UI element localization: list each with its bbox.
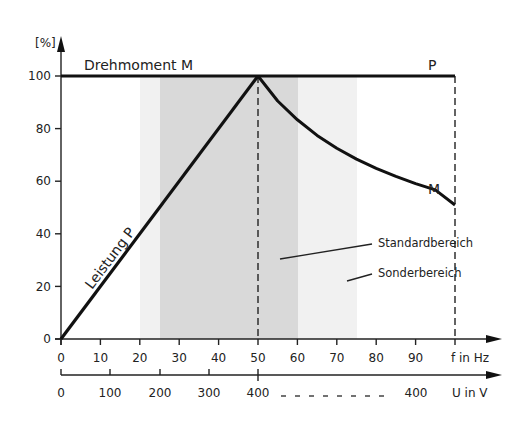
svg-text:60: 60 [36,174,51,188]
svg-text:50: 50 [250,351,265,365]
secondary-axis-label: U in V [452,386,488,400]
svg-text:80: 80 [36,122,51,136]
y-tick-labels: 100 80 60 40 20 0 [28,69,51,346]
x-tick-labels: 0 10 20 30 40 50 60 70 80 90 [57,351,423,365]
x-axis-arrow-icon [486,335,502,343]
m-end-label: M [428,181,440,197]
y-ticks [55,76,61,339]
svg-text:60: 60 [290,351,305,365]
svg-text:80: 80 [369,351,384,365]
y-axis-arrow-icon [57,36,65,52]
svg-text:70: 70 [329,351,344,365]
drehmoment-label: Drehmoment M [84,57,193,73]
svg-text:100: 100 [99,386,122,400]
frequency-chart: [%] 100 80 60 40 20 0 0 10 20 30 40 [0,0,521,423]
svg-text:20: 20 [132,351,147,365]
svg-text:20: 20 [36,280,51,294]
svg-text:0: 0 [57,386,65,400]
secondary-axis-arrow-icon [486,371,502,379]
svg-text:300: 300 [198,386,221,400]
x-ticks [61,339,455,345]
svg-text:40: 40 [211,351,226,365]
svg-text:200: 200 [149,386,172,400]
svg-text:10: 10 [93,351,108,365]
svg-text:40: 40 [36,227,51,241]
secondary-tick-labels: 0 100 200 300 400 [57,386,269,400]
svg-text:30: 30 [172,351,187,365]
x-axis-label: f in Hz [451,351,489,365]
svg-text:100: 100 [28,69,51,83]
y-axis-label: [%] [35,36,56,50]
svg-text:0: 0 [43,332,51,346]
constant-voltage-label: 400 [405,386,428,400]
svg-text:400: 400 [247,386,270,400]
svg-text:0: 0 [57,351,65,365]
standard-region-label: Standardbereich [378,236,473,250]
p-end-label: P [428,57,436,73]
leistung-label: Leistung P [82,224,138,291]
sonder-region-label: Sonderbereich [378,266,461,280]
svg-text:90: 90 [408,351,423,365]
